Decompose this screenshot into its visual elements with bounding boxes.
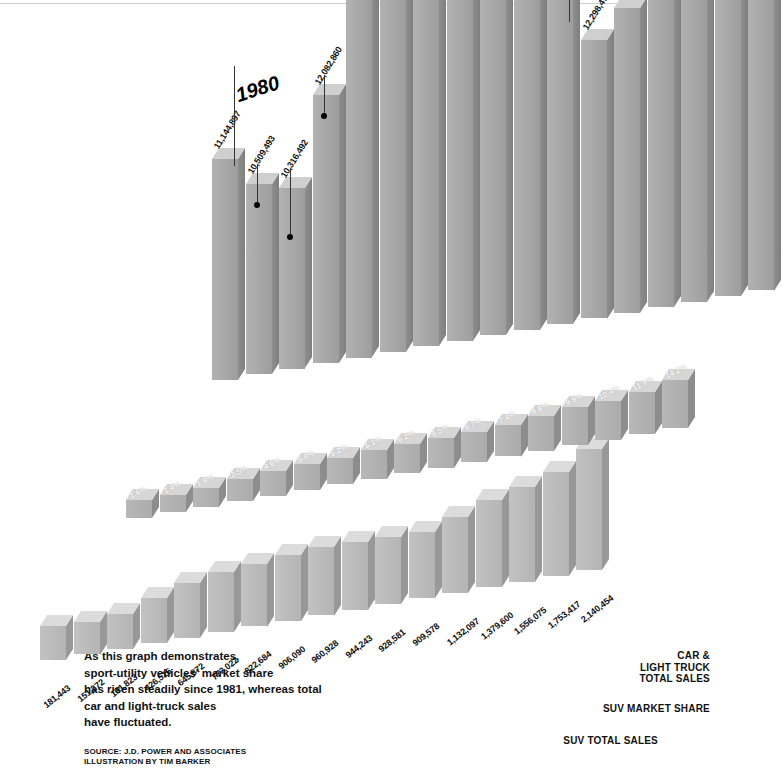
suv-total-sales-bar-1981	[107, 614, 133, 649]
suv-total-label-1991: 1,132,097	[445, 616, 481, 647]
suv-total-label-1993: 1,556,075	[512, 605, 548, 636]
car-total-label-1982: 12,082,860	[312, 45, 343, 87]
bar-side-face	[640, 0, 647, 313]
bar-front-face	[514, 0, 540, 330]
bar-front-face	[380, 0, 406, 352]
bar-front-face	[528, 416, 554, 451]
leader-line-1982	[324, 75, 325, 113]
bar-side-face	[506, 0, 513, 335]
leader-dot-1982	[321, 113, 327, 119]
bar-side-face	[267, 553, 274, 627]
bar-front-face	[246, 184, 272, 374]
bar-front-face	[576, 449, 602, 570]
legend-suv-market-share: SUV MARKET SHARE	[603, 703, 710, 715]
bar-side-face	[707, 0, 714, 302]
bar-side-face	[406, 0, 413, 352]
bar-front-face	[174, 583, 200, 638]
bar-front-face	[260, 471, 286, 496]
bar-front-face	[681, 0, 707, 302]
bar-front-face	[562, 407, 588, 445]
suv-total-sales-bar-1979	[40, 626, 66, 660]
bar-side-face	[774, 0, 781, 290]
car-light-truck-bar-1991	[614, 8, 640, 313]
car-total-label-1980: 10,509,493	[245, 134, 276, 176]
bar-side-face	[573, 0, 580, 324]
suv-market-share-bar-1995	[662, 380, 688, 428]
bar-front-face	[614, 8, 640, 313]
bar-front-face	[442, 517, 468, 593]
bar-side-face	[334, 536, 341, 616]
bar-front-face	[476, 500, 502, 587]
bar-front-face	[581, 40, 607, 319]
legend-suv-total-sales: SUV TOTAL SALES	[563, 735, 658, 747]
suv-total-sales-bar-1988	[342, 542, 368, 610]
bar-front-face	[74, 622, 100, 655]
car-light-truck-bar-1986	[447, 0, 473, 341]
suv-total-label-1995: 2,140,454	[579, 593, 615, 624]
bar-side-face	[200, 572, 207, 638]
illustration-line: ILLUSTRATION BY TIM BARKER	[84, 757, 414, 767]
bar-front-face	[361, 450, 387, 479]
bar-side-face	[741, 0, 748, 296]
suv-total-sales-bar-1982	[141, 598, 167, 643]
bar-side-face	[439, 0, 446, 346]
bar-side-face	[272, 173, 279, 374]
bar-front-face	[342, 542, 368, 610]
suv-market-share-bar-1989	[461, 432, 487, 462]
car-light-truck-bar-1983	[346, 0, 372, 358]
car-light-truck-bar-1993	[681, 0, 707, 302]
car-light-truck-bar-1992	[648, 0, 674, 307]
bar-front-face	[313, 95, 339, 363]
bar-side-face	[502, 489, 509, 587]
suv-market-share-bar-1982	[227, 479, 253, 501]
year-label-1980: 1980	[232, 72, 281, 108]
suv-market-share-bar-1988	[428, 438, 454, 468]
bar-front-face	[748, 0, 774, 290]
bar-front-face	[141, 598, 167, 643]
suv-market-share-bar-1987	[394, 444, 420, 473]
suv-total-sales-bar-1986	[275, 555, 301, 621]
suv-total-sales-bar-1989	[375, 537, 401, 604]
bar-side-face	[569, 461, 576, 576]
bar-front-face	[543, 472, 569, 576]
suv-total-sales-bar-1992	[476, 500, 502, 587]
bar-front-face	[547, 0, 573, 324]
bar-front-face	[662, 380, 688, 428]
car-light-truck-bar-1981	[279, 188, 305, 368]
car-light-truck-bar-1994	[715, 0, 741, 296]
bar-front-face	[461, 432, 487, 462]
caption-line-4: have fluctuated.	[84, 714, 414, 731]
leader-line-1980	[257, 164, 258, 202]
suv-total-label-1990: 909,578	[410, 621, 441, 648]
bar-side-face	[372, 0, 379, 358]
bar-front-face	[294, 464, 320, 490]
bar-front-face	[275, 555, 301, 621]
bar-side-face	[435, 521, 442, 598]
suv-total-label-1994: 1,753,417	[546, 599, 582, 630]
suv-total-label-1992: 1,379,600	[479, 610, 515, 641]
bar-front-face	[428, 438, 454, 468]
car-light-truck-bar-1985	[413, 0, 439, 346]
bar-side-face	[305, 177, 312, 368]
caption-text: As this graph demonstrates,sport-utility…	[84, 648, 414, 731]
car-light-truck-bar-1979	[212, 159, 238, 380]
bar-front-face	[715, 0, 741, 296]
bar-front-face	[308, 547, 334, 616]
car-total-label-1990: 12,298,470	[580, 0, 611, 31]
bar-front-face	[447, 0, 473, 341]
bar-side-face	[602, 438, 609, 570]
bar-side-face	[301, 544, 308, 621]
bar-front-face	[212, 159, 238, 380]
car-light-truck-bar-1984	[380, 0, 406, 352]
suv-market-share-bar-1990	[495, 425, 521, 457]
suv-total-sales-bar-1985	[241, 564, 267, 627]
suv-market-share-bar-1993	[595, 401, 621, 440]
bar-side-face	[368, 531, 375, 610]
car-light-truck-bar-1995	[748, 0, 774, 290]
source-line: SOURCE: J.D. POWER AND ASSOCIATES	[84, 747, 414, 757]
suv-market-share-bar-1979	[126, 500, 152, 518]
credit-block: SOURCE: J.D. POWER AND ASSOCIATES ILLUST…	[84, 747, 414, 766]
bar-front-face	[160, 495, 186, 512]
bar-front-face	[327, 458, 353, 484]
